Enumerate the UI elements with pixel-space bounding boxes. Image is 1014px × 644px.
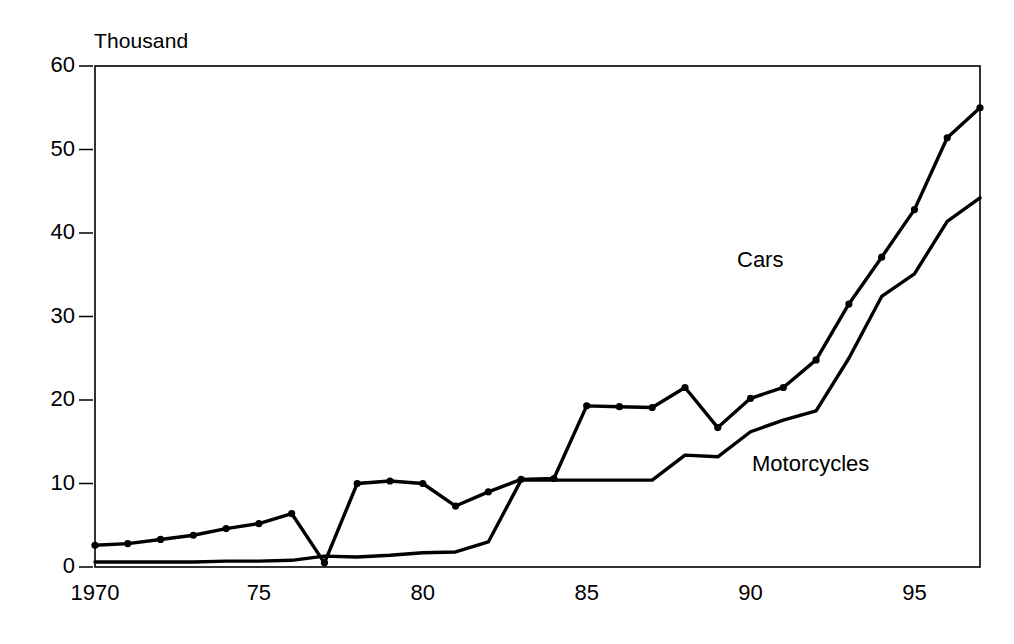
data-point-marker xyxy=(321,559,328,566)
data-point-marker xyxy=(583,402,590,409)
data-point-marker xyxy=(223,525,230,532)
data-point-marker xyxy=(845,300,852,307)
x-axis-tick-label: 90 xyxy=(706,581,796,605)
y-axis-tick-marks xyxy=(79,66,93,567)
y-axis-tick-label: 50 xyxy=(27,137,75,161)
data-point-marker xyxy=(780,384,787,391)
line-chart: Thousand Cars Motorcycles 0102030405060 … xyxy=(0,0,1014,644)
y-axis-tick-label: 20 xyxy=(27,387,75,411)
data-point-marker xyxy=(747,395,754,402)
x-axis-tick-label: 75 xyxy=(214,581,304,605)
y-axis-tick-label: 40 xyxy=(27,220,75,244)
data-point-marker xyxy=(976,104,983,111)
data-point-marker xyxy=(813,356,820,363)
data-point-marker xyxy=(944,134,951,141)
axis-unit-label: Thousand xyxy=(94,29,188,53)
data-point-marker xyxy=(452,502,459,509)
x-axis-tick-label: 95 xyxy=(869,581,959,605)
x-axis-tick-label: 80 xyxy=(378,581,468,605)
chart-canvas xyxy=(0,0,1014,644)
series-label-cars: Cars xyxy=(737,248,783,272)
data-point-marker xyxy=(124,540,131,547)
data-point-marker xyxy=(386,477,393,484)
data-point-marker xyxy=(255,520,262,527)
y-axis-tick-label: 30 xyxy=(27,304,75,328)
plot-frame xyxy=(95,66,980,567)
y-axis-tick-label: 60 xyxy=(27,53,75,77)
data-point-marker xyxy=(911,206,918,213)
data-point-marker xyxy=(354,480,361,487)
data-point-marker xyxy=(419,480,426,487)
data-point-marker xyxy=(681,384,688,391)
data-point-marker xyxy=(190,532,197,539)
series-label-motorcycles: Motorcycles xyxy=(752,452,869,476)
data-point-marker xyxy=(714,424,721,431)
x-axis-tick-label: 1970 xyxy=(50,581,140,605)
y-axis-tick-label: 10 xyxy=(27,471,75,495)
data-point-marker xyxy=(878,254,885,261)
plot-area-border xyxy=(95,66,980,567)
data-point-marker xyxy=(485,488,492,495)
y-axis-tick-label: 0 xyxy=(27,554,75,578)
x-axis-tick-label: 85 xyxy=(542,581,632,605)
data-point-marker xyxy=(616,403,623,410)
data-point-marker xyxy=(157,536,164,543)
data-point-marker xyxy=(288,510,295,517)
data-point-marker xyxy=(91,542,98,549)
data-point-marker xyxy=(649,404,656,411)
